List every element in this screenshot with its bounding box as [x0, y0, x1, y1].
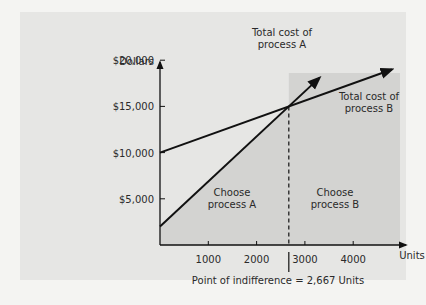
y-tick-label: $5,000 [119, 194, 154, 205]
label-choose-process-b: Choose [317, 187, 354, 198]
label-process-a: Total cost of [251, 27, 313, 38]
x-axis-label: Units [399, 250, 425, 261]
y-tick-label: $15,000 [113, 101, 154, 112]
label-choose-process-b: process B [311, 199, 360, 210]
x-tick-label: 3000 [292, 254, 317, 265]
label-choose-process-a: Choose [214, 187, 251, 198]
x-tick-label: 4000 [340, 254, 365, 265]
label-process-b: Total cost of [338, 91, 400, 102]
y-tick-label: $20,000 [113, 55, 154, 66]
chart: DollarsUnits$5,000$10,000$15,000$20,0001… [0, 0, 426, 305]
x-tick-label: 1000 [196, 254, 221, 265]
label-process-b: process B [345, 103, 394, 114]
label-process-a: process A [258, 39, 307, 50]
x-tick-label: 2000 [244, 254, 269, 265]
label-choose-process-a: process A [208, 199, 257, 210]
indifference-label: Point of indifference = 2,667 Units [192, 275, 364, 286]
y-tick-label: $10,000 [113, 148, 154, 159]
